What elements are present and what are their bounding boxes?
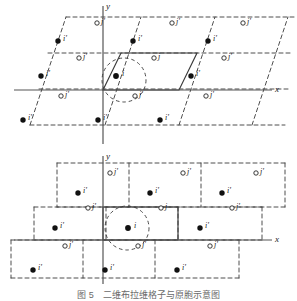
filled-sites [20, 38, 210, 122]
site-label-filled: i' [182, 264, 186, 272]
site-label-filled: i' [46, 70, 50, 78]
site-label-filled: i' [138, 35, 142, 43]
filled-site [55, 38, 60, 43]
axes [14, 6, 272, 144]
panel-oblique-lattice: y x i' i' i' i' i i' i' i' i' j' j' j' j… [0, 0, 297, 150]
site-label-filled: i' [60, 222, 64, 230]
y-axis-label: y [106, 2, 110, 11]
staggered-lattice-svg [0, 150, 297, 290]
site-label-filled: i' [213, 35, 217, 43]
unit-cell-outline [103, 53, 197, 90]
site-label-open: j' [236, 203, 240, 211]
open-site [63, 244, 67, 248]
site-label-open: j' [139, 91, 143, 99]
filled-site [52, 225, 57, 230]
site-label-filled: i' [103, 114, 107, 122]
open-site [136, 244, 140, 248]
site-label-open: j' [210, 91, 214, 99]
open-site [133, 94, 137, 98]
site-label-filled: i' [196, 70, 200, 78]
open-site [241, 21, 245, 25]
filled-site [157, 117, 162, 122]
open-site [77, 56, 81, 60]
dashed-lattice-lines [30, 17, 294, 125]
site-label-filled: i' [63, 35, 67, 43]
site-label-open: j' [65, 91, 69, 99]
open-site [59, 94, 63, 98]
filled-site-i [113, 73, 119, 79]
site-label-open-j: j [165, 203, 167, 211]
open-site [208, 244, 212, 248]
figure-root: y x i' i' i' i' i i' i' i' i' j' j' j' j… [0, 0, 297, 301]
x-axis-label: x [275, 85, 279, 94]
open-site [108, 171, 112, 175]
open-site-j [152, 56, 156, 60]
site-label-filled: i' [227, 187, 231, 195]
site-label-open: j' [92, 203, 96, 211]
filled-site [102, 267, 107, 272]
site-label-open: j' [187, 168, 191, 176]
site-label-filled: i' [28, 114, 32, 122]
open-site [95, 21, 99, 25]
filled-site [30, 267, 35, 272]
site-label-filled: i' [83, 187, 87, 195]
filled-site [197, 225, 202, 230]
y-axis-label: y [106, 152, 110, 161]
open-site [230, 206, 234, 210]
open-site [204, 94, 208, 98]
filled-site [95, 117, 100, 122]
site-label-filled: i' [38, 264, 42, 272]
figure-caption: 图 5 二维布拉维格子与原胞示意图 [0, 288, 297, 301]
filled-site [147, 190, 152, 195]
site-label-open: j' [83, 53, 87, 61]
filled-site [20, 117, 25, 122]
dashed-lattice-lines [11, 163, 285, 278]
site-label-open: j' [228, 53, 232, 61]
site-label-open: j' [176, 18, 180, 26]
open-site [86, 206, 90, 210]
site-label-filled-i: i [122, 70, 124, 78]
site-label-filled-i: i [134, 222, 136, 230]
open-site-j [159, 206, 163, 210]
site-label-filled: i' [155, 187, 159, 195]
site-label-open: j' [142, 241, 146, 249]
open-site [222, 56, 226, 60]
x-axis-label: x [275, 235, 279, 244]
site-label-filled: i' [110, 264, 114, 272]
filled-site-i [125, 225, 131, 231]
open-site [254, 171, 258, 175]
filled-site [205, 38, 210, 43]
filled-site [130, 38, 135, 43]
site-label-open: j' [69, 241, 73, 249]
site-label-open: j' [101, 18, 105, 26]
site-label-filled: i' [205, 222, 209, 230]
site-label-open: j' [214, 241, 218, 249]
filled-site [38, 73, 43, 78]
site-label-open-j: j [158, 53, 160, 61]
filled-site [219, 190, 224, 195]
panel-staggered-lattice: y x i' i' i' i' i i' i' i' i' j' j' j' j… [0, 150, 297, 290]
site-label-open: j' [260, 168, 264, 176]
site-label-filled: i' [165, 114, 169, 122]
unit-cell-outline [103, 207, 178, 240]
site-label-open: j' [247, 18, 251, 26]
open-site [181, 171, 185, 175]
filled-site [188, 73, 193, 78]
filled-sites [30, 190, 224, 272]
site-label-open: j' [114, 168, 118, 176]
filled-site [174, 267, 179, 272]
axes [14, 156, 272, 284]
filled-site [75, 190, 80, 195]
oblique-lattice-svg [0, 0, 297, 150]
open-site [170, 21, 174, 25]
